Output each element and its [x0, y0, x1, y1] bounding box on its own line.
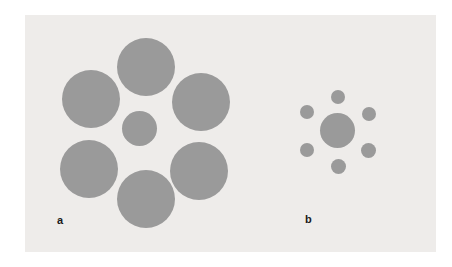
surround-disc-b-upper-right	[362, 107, 376, 121]
surround-disc-b-lower-right	[361, 143, 376, 158]
surround-disc-b-top	[331, 90, 345, 104]
surround-disc-a-bottom	[117, 170, 175, 228]
figure-panel-background: a b	[25, 15, 436, 252]
panel-label-b: b	[305, 214, 312, 225]
center-disc-b	[320, 113, 355, 148]
surround-disc-b-bottom	[331, 159, 346, 174]
panel-label-a: a	[57, 215, 63, 226]
surround-disc-a-lower-left	[60, 140, 118, 198]
surround-disc-a-upper-left	[62, 70, 120, 128]
discs-layer	[25, 15, 436, 252]
surround-disc-a-lower-right	[170, 142, 228, 200]
figure-root: a b	[0, 0, 452, 267]
center-disc-a	[122, 111, 157, 146]
surround-disc-a-top	[117, 38, 175, 96]
surround-disc-b-lower-left	[300, 143, 314, 157]
surround-disc-a-upper-right	[172, 73, 230, 131]
surround-disc-b-upper-left	[300, 105, 314, 119]
